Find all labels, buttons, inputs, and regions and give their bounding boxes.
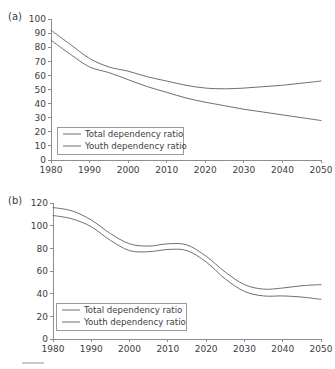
series-line-youth xyxy=(53,215,321,299)
x-tick-label: 2020 xyxy=(194,165,217,175)
legend-label: Youth dependency ratio xyxy=(84,141,187,151)
x-tick-label: 2050 xyxy=(310,165,333,175)
y-tick-label: 60 xyxy=(37,266,49,276)
y-tick-label: 100 xyxy=(31,221,48,231)
y-tick-label: 80 xyxy=(37,244,49,254)
y-tick-label: 50 xyxy=(35,85,47,95)
y-tick-label: 80 xyxy=(35,42,47,52)
x-tick-label: 2040 xyxy=(271,344,294,354)
x-tick-label: 2040 xyxy=(271,165,294,175)
y-tick-label: 0 xyxy=(42,334,48,344)
series-line-total xyxy=(51,30,321,89)
series-line-youth xyxy=(51,40,321,120)
x-tick-label: 1980 xyxy=(40,165,63,175)
x-tick-label: 1980 xyxy=(42,344,65,354)
y-tick-label: 20 xyxy=(37,312,49,322)
y-tick-label: 60 xyxy=(35,71,47,81)
x-tick-label: 1990 xyxy=(78,165,101,175)
caption-rule xyxy=(22,362,44,364)
x-tick-label: 1990 xyxy=(80,344,103,354)
chart-panel-b: (b) 020406080100120198019902000201020202… xyxy=(0,186,335,368)
legend-label: Total dependency ratio xyxy=(84,129,183,139)
y-tick-label: 100 xyxy=(29,14,46,24)
y-tick-label: 10 xyxy=(35,141,47,151)
x-tick-label: 2020 xyxy=(195,344,218,354)
x-tick-label: 2050 xyxy=(310,344,333,354)
y-tick-label: 20 xyxy=(35,127,47,137)
y-tick-label: 90 xyxy=(35,28,47,38)
x-tick-label: 2000 xyxy=(117,165,140,175)
x-tick-label: 2010 xyxy=(155,165,178,175)
chart-legend: Total dependency ratioYouth dependency r… xyxy=(57,127,187,154)
line-chart-b: 0204060801001201980199020002010202020302… xyxy=(0,186,335,368)
x-tick-label: 2030 xyxy=(232,165,255,175)
dependency-ratio-figure: (a) 010203040506070809010019801990200020… xyxy=(0,0,335,369)
y-tick-label: 40 xyxy=(37,289,49,299)
line-chart-a: 0102030405060708090100198019902000201020… xyxy=(0,2,335,184)
x-tick-label: 2030 xyxy=(233,344,256,354)
chart-panel-a: (a) 010203040506070809010019801990200020… xyxy=(0,2,335,184)
chart-legend: Total dependency ratioYouth dependency r… xyxy=(56,303,186,330)
y-tick-label: 0 xyxy=(40,155,46,165)
y-tick-label: 30 xyxy=(35,113,47,123)
x-tick-label: 2000 xyxy=(118,344,141,354)
y-tick-label: 70 xyxy=(35,57,47,67)
legend-label: Total dependency ratio xyxy=(83,305,182,315)
y-tick-label: 120 xyxy=(31,198,48,208)
y-tick-label: 40 xyxy=(35,99,47,109)
legend-label: Youth dependency ratio xyxy=(83,317,186,327)
x-tick-label: 2010 xyxy=(156,344,179,354)
series-line-total xyxy=(53,208,321,290)
